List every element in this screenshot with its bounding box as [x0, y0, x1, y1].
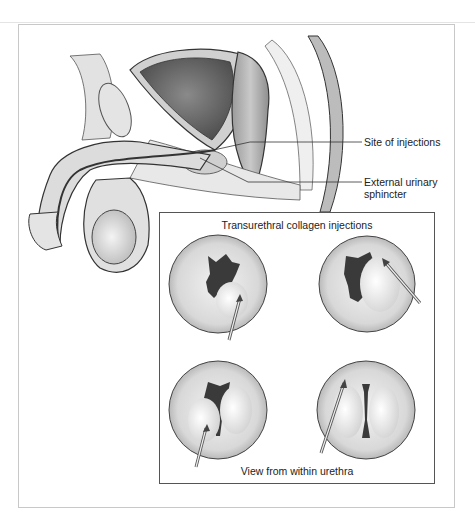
testis	[92, 210, 136, 264]
view-panel-4	[317, 361, 415, 459]
view-panel-1	[169, 235, 267, 340]
body-wall-outline	[308, 36, 343, 212]
label-site-of-injections: Site of injections	[364, 136, 440, 148]
view-panel-3	[169, 361, 267, 467]
glans	[29, 212, 62, 250]
inset-urethral-views: Transurethral collagen injections	[159, 212, 435, 484]
view-panel-2	[319, 236, 420, 332]
endoscopic-views	[159, 212, 435, 484]
label-external-sphincter-line1: External urinary	[364, 176, 438, 188]
label-external-sphincter-line2: sphincter	[364, 188, 407, 200]
inset-caption: View from within urethra	[160, 465, 434, 477]
rectum	[232, 52, 269, 186]
sacral-tissue	[265, 40, 313, 190]
